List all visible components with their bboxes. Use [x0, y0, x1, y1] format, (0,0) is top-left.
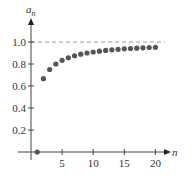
data-point	[53, 61, 58, 66]
x-axis-arrow-icon	[164, 149, 171, 155]
sequence-scatter-chart: 0.20.40.60.81.0 5101520 an n	[0, 0, 192, 179]
data-point	[41, 76, 46, 81]
data-point	[122, 46, 127, 51]
data-point	[153, 45, 158, 50]
data-point	[60, 58, 65, 63]
y-tick-label: 0.2	[12, 124, 26, 136]
x-axis-label: n	[172, 146, 178, 158]
data-point	[103, 48, 108, 53]
x-tick-label: 20	[150, 157, 162, 169]
data-point	[35, 149, 40, 154]
y-tick-label: 0.8	[12, 58, 26, 70]
y-tick-label: 1.0	[12, 36, 26, 48]
data-point	[84, 50, 89, 55]
y-axis-label: an	[26, 3, 36, 18]
y-tick-label: 0.4	[12, 102, 26, 114]
y-axis-label-subscript: n	[32, 9, 36, 18]
data-point	[140, 45, 145, 50]
data-point	[128, 46, 133, 51]
data-point	[78, 52, 83, 57]
data-point	[147, 45, 152, 50]
data-point	[47, 67, 52, 72]
y-axis-arrow-icon	[28, 18, 34, 25]
x-tick-label: 15	[119, 157, 131, 169]
x-tick-label: 10	[88, 157, 100, 169]
x-tick-label: 5	[59, 157, 65, 169]
data-points	[35, 45, 158, 155]
data-point	[97, 49, 102, 54]
data-point	[134, 46, 139, 51]
data-point	[109, 47, 114, 52]
data-point	[66, 55, 71, 60]
data-point	[72, 53, 77, 58]
data-point	[115, 47, 120, 52]
axes	[18, 18, 171, 160]
y-tick-label: 0.6	[12, 80, 26, 92]
data-point	[91, 49, 96, 54]
